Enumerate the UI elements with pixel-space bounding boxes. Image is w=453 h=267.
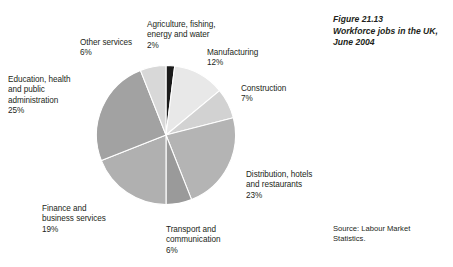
slice-label-education-line2: and public (8, 85, 45, 94)
slice-label-construction: Construction 7% (241, 74, 311, 115)
slice-label-construction-line1: Construction (241, 84, 286, 93)
source-line-1: Source: Labour Market (333, 224, 451, 234)
slice-label-other-services: Other services 6% (80, 28, 156, 69)
pie-chart-svg (96, 65, 236, 205)
slice-label-education-line1: Education, health (8, 75, 70, 84)
source-line-2: Statistics. (333, 234, 451, 244)
source-note: Source: Labour Market Statistics. (333, 224, 451, 244)
slice-value-distribution: 23% (246, 191, 338, 201)
slice-label-agriculture-line2: energy and water (147, 30, 209, 39)
slice-value-transport: 6% (166, 246, 248, 256)
slice-label-education: Education, health and public administrat… (8, 65, 98, 126)
slice-value-education: 25% (8, 106, 98, 116)
slice-label-transport: Transport and communication 6% (166, 215, 248, 266)
slice-value-manufacturing: 12% (207, 58, 285, 68)
figure-title: Workforce jobs in the UK, June 2004 (333, 26, 451, 49)
slice-label-finance-line2: business services (42, 214, 106, 223)
slice-label-transport-line2: communication (166, 235, 220, 244)
slice-value-other-services: 6% (80, 48, 156, 58)
slice-label-distribution-line2: and restaurants (246, 180, 302, 189)
figure-caption: Figure 21.13 Workforce jobs in the UK, J… (333, 14, 451, 49)
slice-label-finance-line1: Finance and (42, 204, 87, 213)
figure-number: Figure 21.13 (333, 14, 451, 26)
slice-label-distribution: Distribution, hotels and restaurants 23% (246, 160, 338, 211)
slice-label-education-line3: administration (8, 96, 58, 105)
slice-label-agriculture-line1: Agriculture, fishing, (147, 20, 216, 29)
slice-label-manufacturing: Manufacturing 12% (207, 38, 285, 79)
slice-label-finance: Finance and business services 19% (42, 194, 134, 245)
figure-container: Agriculture, fishing, energy and water 2… (0, 0, 453, 267)
slice-label-other-services-line1: Other services (80, 38, 132, 47)
slice-label-transport-line1: Transport and (166, 225, 216, 234)
slice-label-manufacturing-line1: Manufacturing (207, 48, 258, 57)
slice-value-finance: 19% (42, 225, 134, 235)
slice-label-distribution-line1: Distribution, hotels (246, 170, 312, 179)
pie-chart (96, 65, 236, 205)
slice-value-construction: 7% (241, 94, 311, 104)
